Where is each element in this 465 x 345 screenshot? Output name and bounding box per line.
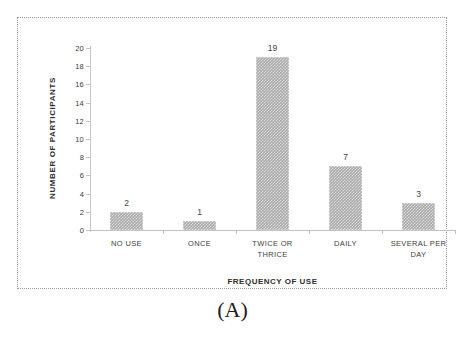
bar-value-label: 7 bbox=[343, 152, 348, 162]
y-tick-label: 4 bbox=[80, 189, 84, 198]
chart-frame: NUMBER OF PARTICIPANTS 20181614121086420… bbox=[17, 17, 447, 289]
figure-panel: NUMBER OF PARTICIPANTS 20181614121086420… bbox=[0, 0, 465, 345]
bar[interactable]: 1 bbox=[183, 221, 216, 230]
y-tick-label: 12 bbox=[75, 116, 84, 125]
x-tick-mark bbox=[309, 230, 310, 234]
y-tick-label: 20 bbox=[75, 44, 84, 53]
y-tick-mark bbox=[86, 230, 90, 231]
x-axis-title: FREQUENCY OF USE bbox=[90, 277, 455, 286]
y-tick-label: 16 bbox=[75, 80, 84, 89]
y-tick-mark bbox=[86, 103, 90, 104]
y-tick-mark bbox=[86, 48, 90, 49]
y-tick-mark bbox=[86, 66, 90, 67]
bar-value-label: 2 bbox=[124, 198, 129, 208]
y-tick-label: 0 bbox=[80, 226, 84, 235]
y-tick-mark bbox=[86, 157, 90, 158]
plot-area: 20181614121086420211973 bbox=[90, 48, 455, 230]
bar[interactable]: 7 bbox=[329, 166, 362, 230]
y-tick-label: 2 bbox=[80, 207, 84, 216]
y-tick-mark bbox=[86, 175, 90, 176]
x-tick-mark bbox=[163, 230, 164, 234]
bar[interactable]: 3 bbox=[402, 203, 435, 230]
x-axis-line bbox=[90, 230, 455, 231]
y-tick-mark bbox=[86, 212, 90, 213]
y-tick-label: 6 bbox=[80, 171, 84, 180]
y-tick-mark bbox=[86, 139, 90, 140]
bar-value-label: 3 bbox=[416, 189, 421, 199]
x-tick-mark bbox=[455, 230, 456, 234]
panel-caption: (A) bbox=[0, 297, 465, 323]
bar[interactable]: 2 bbox=[110, 212, 143, 230]
y-axis-title: NUMBER OF PARTICIPANTS bbox=[48, 77, 57, 199]
x-tick-mark bbox=[382, 230, 383, 234]
y-tick-label: 14 bbox=[75, 98, 84, 107]
bar-value-label: 1 bbox=[197, 207, 202, 217]
y-tick-label: 8 bbox=[80, 153, 84, 162]
y-tick-mark bbox=[86, 84, 90, 85]
bar-value-label: 19 bbox=[268, 43, 277, 53]
x-category-label: SEVERAL PER DAY bbox=[371, 238, 465, 260]
x-tick-mark bbox=[236, 230, 237, 234]
y-tick-label: 18 bbox=[75, 62, 84, 71]
bar[interactable]: 19 bbox=[256, 57, 289, 230]
y-tick-mark bbox=[86, 121, 90, 122]
y-tick-mark bbox=[86, 194, 90, 195]
y-tick-label: 10 bbox=[75, 135, 84, 144]
